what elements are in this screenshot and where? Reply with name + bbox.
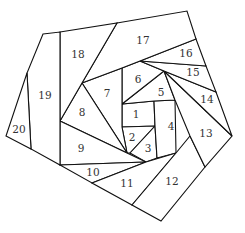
piece-label-16: 16: [179, 47, 193, 59]
piece-label-12: 12: [165, 175, 178, 187]
piece-label-10: 10: [86, 166, 99, 178]
piece-label-11: 11: [120, 177, 133, 189]
piece-label-9: 9: [78, 142, 85, 154]
piece-label-13: 13: [199, 127, 212, 139]
piece-label-14: 14: [200, 93, 214, 105]
piece-label-18: 18: [71, 48, 84, 60]
piece-label-5: 5: [158, 86, 165, 98]
piece-label-1: 1: [133, 108, 140, 120]
piece-label-3: 3: [145, 142, 152, 154]
piece-label-20: 20: [12, 123, 25, 135]
piece-label-15: 15: [186, 66, 199, 78]
pentagon-pattern-diagram: 1234567891011121314151617181920: [0, 0, 245, 233]
piece-label-6: 6: [135, 73, 142, 85]
piece-label-19: 19: [38, 89, 51, 101]
piece-label-2: 2: [129, 131, 136, 143]
piece-label-7: 7: [104, 87, 111, 99]
piece-label-4: 4: [168, 120, 175, 132]
piece-label-8: 8: [79, 106, 86, 118]
piece-label-17: 17: [136, 34, 149, 46]
piece-20: [6, 73, 31, 149]
